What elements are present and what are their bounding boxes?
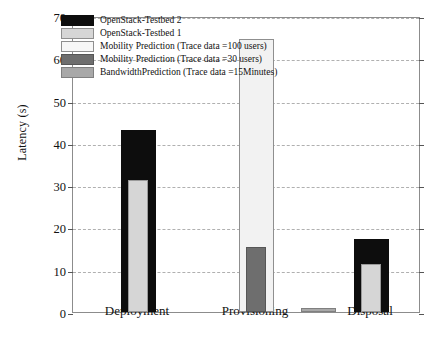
bar-chart: Latency (s) 706050403020100 DeploymentPr… <box>0 0 441 350</box>
bar-disposal-series-1 <box>361 264 381 312</box>
y-tick-60-right <box>419 60 424 61</box>
legend-swatch-darkgray <box>61 54 94 65</box>
legend-item-2: Mobility Prediction (Trace data =100 use… <box>61 40 277 53</box>
legend-item-0: OpenStack-Testbed 2 <box>61 14 277 27</box>
y-tick-20-right <box>419 229 424 230</box>
y-tick-label-20: 20 <box>54 222 67 237</box>
y-tick-40-right <box>419 145 424 146</box>
y-tick-50 <box>68 103 73 104</box>
y-tick-label-40: 40 <box>54 137 67 152</box>
y-tick-30 <box>68 187 73 188</box>
legend-label-4: BandwidthPrediction (Trace data =15Minut… <box>100 67 277 78</box>
legend-item-3: Mobility Prediction (Trace data =30 user… <box>61 53 277 66</box>
legend-item-4: BandwidthPrediction (Trace data =15Minut… <box>61 66 277 79</box>
legend: OpenStack-Testbed 2OpenStack-Testbed 1Mo… <box>61 14 277 79</box>
y-tick-0-right <box>419 314 424 315</box>
y-tick-40 <box>68 145 73 146</box>
y-tick-70-right <box>419 18 424 19</box>
bar-deployment-series-1 <box>128 180 148 312</box>
y-tick-50-right <box>419 103 424 104</box>
legend-swatch-lightgray <box>61 28 94 39</box>
y-tick-10 <box>68 272 73 273</box>
bar-bandwidth-prediction <box>301 308 336 312</box>
y-tick-0 <box>68 314 73 315</box>
legend-swatch-medgray <box>61 67 94 78</box>
legend-label-0: OpenStack-Testbed 2 <box>100 15 181 26</box>
y-tick-label-50: 50 <box>54 95 67 110</box>
legend-swatch-offwhite <box>61 41 94 52</box>
y-tick-label-10: 10 <box>54 264 67 279</box>
legend-label-2: Mobility Prediction (Trace data =100 use… <box>100 41 267 52</box>
y-tick-20 <box>68 229 73 230</box>
legend-item-1: OpenStack-Testbed 1 <box>61 27 277 40</box>
legend-label-1: OpenStack-Testbed 1 <box>100 28 181 39</box>
legend-label-3: Mobility Prediction (Trace data =30 user… <box>100 54 262 65</box>
y-tick-30-right <box>419 187 424 188</box>
y-tick-label-30: 30 <box>54 180 67 195</box>
y-tick-10-right <box>419 272 424 273</box>
y-tick-label-0: 0 <box>60 307 66 322</box>
legend-swatch-black <box>61 15 94 26</box>
bar-provisioning-series-3 <box>246 247 266 312</box>
y-axis-title: Latency (s) <box>15 73 30 193</box>
